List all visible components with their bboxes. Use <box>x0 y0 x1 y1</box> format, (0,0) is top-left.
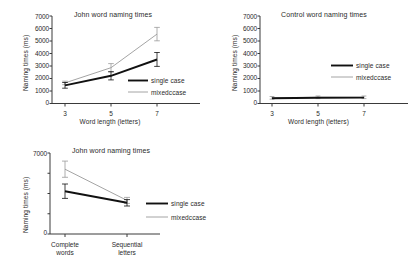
legend-label-mixedccase: mixedccase <box>151 89 186 96</box>
series-single-case <box>62 184 130 206</box>
chart-panel-john-word-length: John word naming times Naming times (ms)… <box>0 0 208 132</box>
chart-panel-control-word-length: Control word naming times Naming times (… <box>209 0 417 132</box>
legend-label-single-case: single case <box>356 62 390 69</box>
legend-label-single-case: single case <box>151 77 185 84</box>
legend-label-mixedccase: mixedccase <box>171 214 206 221</box>
series-single-case <box>272 98 364 99</box>
plot-area <box>0 0 208 132</box>
chart-panel-john-word-type: John word naming times Naming times (ms)… <box>0 133 220 268</box>
legend-label-mixedccase: mixedccase <box>356 74 391 81</box>
legend-label-single-case: single case <box>171 200 205 207</box>
